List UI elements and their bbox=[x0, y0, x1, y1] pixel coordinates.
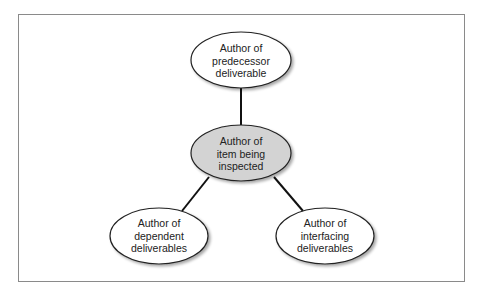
label-line: Author of bbox=[186, 135, 296, 148]
label-line: predecessor bbox=[186, 55, 296, 68]
label-line: dependent bbox=[104, 230, 214, 243]
node-center-label: Author of item being inspected bbox=[186, 135, 296, 173]
label-line: Author of bbox=[104, 217, 214, 230]
label-line: inspected bbox=[186, 160, 296, 173]
node-bottom-left-label: Author of dependent deliverables bbox=[104, 217, 214, 255]
node-top-label: Author of predecessor deliverable bbox=[186, 42, 296, 80]
label-line: interfacing bbox=[270, 230, 380, 243]
edge-center-bottom-left bbox=[182, 177, 209, 211]
node-bottom-right-label: Author of interfacing deliverables bbox=[270, 217, 380, 255]
label-line: item being bbox=[186, 148, 296, 161]
edge-center-bottom-right bbox=[274, 177, 303, 211]
label-line: deliverables bbox=[270, 242, 380, 255]
label-line: Author of bbox=[270, 217, 380, 230]
label-line: deliverable bbox=[186, 67, 296, 80]
label-line: Author of bbox=[186, 42, 296, 55]
label-line: deliverables bbox=[104, 242, 214, 255]
